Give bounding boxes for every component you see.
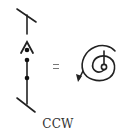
- equals-sign: [53, 65, 59, 69]
- ccw-spiral-icon: [76, 46, 115, 82]
- bottom-slash: [17, 98, 35, 112]
- caption-label: CCW: [38, 117, 78, 131]
- dot-icon: [25, 58, 30, 63]
- dot-icon: [25, 48, 30, 53]
- notation-diagram: CCW: [0, 0, 119, 139]
- dot-icon: [25, 76, 30, 81]
